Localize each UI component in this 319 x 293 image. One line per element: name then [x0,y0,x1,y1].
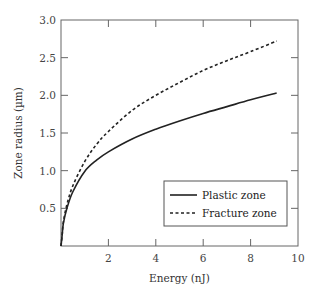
legend: Plastic zone Fracture zone [164,181,287,226]
line-chart: 246810 0.51.01.52.02.53.0 Energy (nJ) Zo… [0,0,319,293]
x-axis-label: Energy (nJ) [149,272,210,284]
legend-box [164,181,287,226]
x-tick-label: 2 [105,252,112,264]
y-tick-label: 2.0 [39,89,56,101]
x-tick-label: 4 [152,252,159,264]
y-tick-label: 2.5 [39,52,56,64]
y-tick-label: 1.0 [39,165,56,177]
y-tick-label: 0.5 [39,202,56,214]
x-tick-label: 10 [291,252,304,264]
x-tick-label: 8 [247,252,254,264]
x-tick-label: 6 [200,252,207,264]
y-tick-label: 3.0 [39,14,56,26]
y-tick-label: 1.5 [39,127,56,139]
legend-label-plastic: Plastic zone [202,189,266,201]
legend-label-fracture: Fracture zone [202,207,277,219]
y-axis-label: Zone radius (µm) [12,87,24,179]
x-axis-ticks: 246810 [105,20,305,264]
